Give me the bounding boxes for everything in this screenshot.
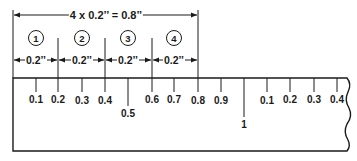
segment-number-3: 3 <box>120 30 136 46</box>
tick-label: 0.8 <box>191 96 205 106</box>
overall-dimension-label: 4 x 0.2’’ = 0.8’’ <box>69 10 143 21</box>
tick-label: 0.4 <box>98 96 112 106</box>
tick-label: 0.2 <box>283 95 297 105</box>
tick-label: 0.3 <box>307 95 321 105</box>
segment-dimension-3: 0.2’’ <box>117 55 139 66</box>
segment-dimension-2: 0.2’’ <box>71 55 93 66</box>
segment-dimension-1: 0.2’’ <box>25 55 47 66</box>
tick-label: 1 <box>241 120 247 130</box>
ruler-body <box>13 78 351 151</box>
tick-label: 0.2 <box>51 95 65 105</box>
tick-label: 0.5 <box>121 109 135 119</box>
tick-label: 0.3 <box>75 96 89 106</box>
tick-label: 0.6 <box>145 95 159 105</box>
tick-label: 0.9 <box>214 96 228 106</box>
segment-number-2: 2 <box>74 30 90 46</box>
tick-label: 0.1 <box>260 96 274 106</box>
diagram-lines <box>0 0 357 161</box>
segment-number-1: 1 <box>28 30 44 46</box>
tick-label: 0.7 <box>167 95 181 105</box>
tick-label: 0.4 <box>330 95 344 105</box>
segment-dimension-4: 0.2’’ <box>163 55 185 66</box>
segment-number-4: 4 <box>166 30 182 46</box>
tick-label: 0.1 <box>29 95 43 105</box>
